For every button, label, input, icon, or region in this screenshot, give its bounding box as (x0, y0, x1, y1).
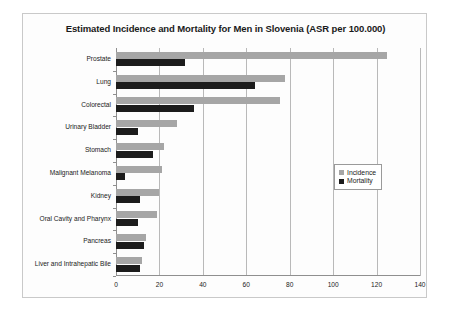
category-label: Malignant Melanoma (50, 170, 111, 177)
x-tick-label: 0 (114, 281, 118, 288)
bar-mortality (116, 173, 125, 180)
gridline-140 (420, 48, 421, 276)
legend-swatch-icon (339, 170, 344, 175)
bar-mortality (116, 242, 144, 249)
bar-row: Colorectal (116, 94, 420, 117)
chart-legend: IncidenceMortality (334, 164, 382, 190)
x-tick-label: 80 (286, 281, 293, 288)
bar-row: Stomach (116, 139, 420, 162)
bar-incidence (116, 143, 164, 150)
bar-incidence (116, 257, 142, 264)
bar-mortality (116, 219, 138, 226)
bar-incidence (116, 120, 177, 127)
x-tick-label: 140 (414, 281, 425, 288)
category-label: Pancreas (83, 238, 111, 245)
bar-mortality (116, 59, 185, 66)
bar-mortality (116, 82, 255, 89)
x-axis-tick-labels: 020406080100120140 (116, 276, 420, 290)
bar-row: Pancreas (116, 230, 420, 253)
legend-label: Incidence (347, 170, 376, 177)
bar-row: Oral Cavity and Pharynx (116, 208, 420, 231)
bar-row: Prostate (116, 48, 420, 71)
bar-incidence (116, 97, 280, 104)
x-tick-label: 20 (156, 281, 163, 288)
bar-mortality (116, 151, 153, 158)
legend-swatch-icon (339, 179, 344, 184)
bar-mortality (116, 128, 138, 135)
x-tick-label: 100 (328, 281, 339, 288)
bar-mortality (116, 196, 140, 203)
bar-incidence (116, 189, 159, 196)
bar-row: Liver and Intrahepatic Bile (116, 253, 420, 276)
category-label: Lung (96, 79, 111, 86)
chart-screenshot: Estimated Incidence and Mortality for Me… (0, 0, 453, 314)
x-tick-label: 120 (371, 281, 382, 288)
category-label: Prostate (86, 56, 111, 63)
bar-incidence (116, 75, 285, 82)
legend-label: Mortality (347, 178, 373, 185)
legend-item: Mortality (339, 178, 376, 185)
chart-title: Estimated Incidence and Mortality for Me… (23, 23, 428, 34)
legend-item: Incidence (339, 170, 376, 177)
chart-frame: Estimated Incidence and Mortality for Me… (22, 13, 427, 298)
bar-row: Lung (116, 71, 420, 94)
category-label: Colorectal (81, 102, 111, 109)
x-tick-label: 60 (243, 281, 250, 288)
bar-mortality (116, 265, 140, 272)
bar-row: Urinary Bladder (116, 116, 420, 139)
bar-incidence (116, 52, 387, 59)
x-tick-label: 40 (199, 281, 206, 288)
plot-area: ProstateLungColorectalUrinary BladderSto… (116, 48, 420, 276)
category-label: Oral Cavity and Pharynx (40, 216, 111, 223)
bar-incidence (116, 166, 162, 173)
category-label: Stomach (85, 147, 111, 154)
bar-incidence (116, 234, 146, 241)
category-label: Urinary Bladder (65, 124, 111, 131)
bar-incidence (116, 211, 157, 218)
category-label: Kidney (91, 193, 111, 200)
category-label: Liver and Intrahepatic Bile (35, 261, 111, 268)
bar-mortality (116, 105, 194, 112)
